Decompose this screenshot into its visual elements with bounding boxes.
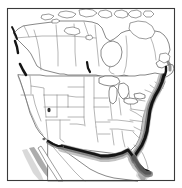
north-america-map <box>0 0 182 188</box>
great-salt-lake-mark <box>47 108 50 112</box>
map-figure: Map of North America United States and C… <box>0 0 182 188</box>
salton-sea-mark <box>42 138 45 141</box>
lake-superior <box>99 76 120 86</box>
maine-coastal-band <box>165 67 166 75</box>
lake-erie <box>124 98 138 104</box>
lake-michigan <box>109 86 117 104</box>
